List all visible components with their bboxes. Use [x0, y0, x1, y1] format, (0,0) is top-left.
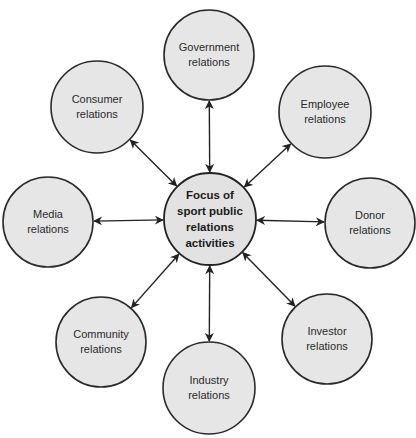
sport-pr-diagram: Focus of sport public relations activiti… [0, 0, 416, 438]
media-relations-label: Media relations [27, 207, 69, 237]
center-node-label: Focus of sport public relations activiti… [177, 187, 243, 251]
label-line: Media [27, 207, 69, 222]
center-label-line: relations [177, 219, 243, 235]
double-arrow-connector-media [94, 220, 163, 221]
industry-relations-label: Industry relations [188, 373, 230, 403]
label-line: Consumer [72, 92, 123, 107]
investor-relations-label: Investor relations [306, 324, 348, 354]
employee-relations-label: Employee relations [301, 97, 350, 127]
label-line: relations [73, 342, 129, 357]
label-line: Donor [349, 208, 391, 223]
double-arrow-connector-employee [244, 144, 290, 187]
community-relations-label: Community relations [73, 327, 129, 357]
label-line: Government [179, 40, 240, 55]
center-label-line: activities [177, 235, 243, 251]
label-line: relations [306, 339, 348, 354]
label-line: relations [188, 388, 230, 403]
government-relations-label: Government relations [179, 40, 240, 70]
label-line: relations [72, 107, 123, 122]
label-line: Investor [306, 324, 348, 339]
double-arrow-connector-community [132, 254, 179, 307]
label-line: relations [179, 55, 240, 70]
label-line: Industry [188, 373, 230, 388]
label-line: Community [73, 327, 129, 342]
double-arrow-connector-consumer [130, 140, 176, 186]
label-line: Employee [301, 97, 350, 112]
donor-relations-label: Donor relations [349, 208, 391, 238]
center-label-line: sport public [177, 203, 243, 219]
label-line: relations [27, 222, 69, 237]
double-arrow-connector-investor [243, 253, 295, 306]
double-arrow-connector-donor [257, 220, 324, 222]
label-line: relations [301, 112, 350, 127]
center-label-line: Focus of [177, 187, 243, 203]
consumer-relations-label: Consumer relations [72, 92, 123, 122]
label-line: relations [349, 223, 391, 238]
